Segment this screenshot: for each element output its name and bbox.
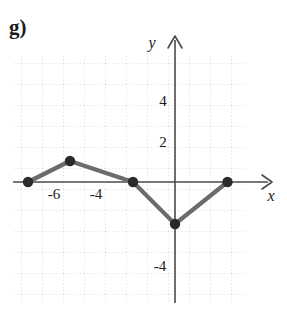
data-point <box>222 177 232 187</box>
y-tick-label-minus4: -4 <box>154 258 167 274</box>
data-point <box>128 177 138 187</box>
x-tick-label-minus6: -6 <box>48 186 61 202</box>
data-point <box>65 156 75 166</box>
data-point <box>23 177 33 187</box>
x-tick-label-minus4: -4 <box>90 186 103 202</box>
coordinate-plane: y x -6 -4 4 2 -4 <box>0 0 287 309</box>
graph-figure: g) y x -6 -4 4 <box>0 0 287 309</box>
y-tick-label-2: 2 <box>159 134 167 150</box>
x-axis-label: x <box>266 187 274 204</box>
y-axis-label: y <box>146 34 156 52</box>
data-point <box>170 219 180 229</box>
y-tick-label-4: 4 <box>159 93 167 109</box>
